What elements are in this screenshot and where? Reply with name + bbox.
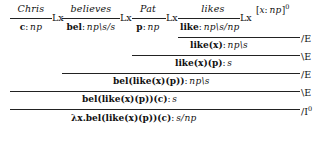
type-assignment-pat: p: np [136,23,159,32]
rule-line-lex-likes [178,18,240,19]
term-step-1: like(x) [190,40,223,50]
rule-label-step-5: /I0 [301,106,312,117]
rule-line-step-2 [132,55,300,56]
type-likes: np\s/np [204,22,240,32]
rule-label-step-4: \E [301,88,311,98]
rule-label-lex-likes: Lx [240,13,252,23]
hypothesis-discharge-label: 0 [285,3,289,11]
colon-pat: : [143,22,146,32]
rule-letter-step-4: E [304,87,311,98]
conclusion-step-2: like(x)(p): s [175,59,232,68]
lexical-word-believes: believes [71,4,112,14]
rule-letter-step-3: E [304,69,311,80]
type-step-1: np\s [228,40,248,50]
rule-line-step-3 [62,73,300,74]
rule-label-step-1: /E [301,34,311,44]
type-assignment-believes: bel: np\s/s [67,23,116,32]
proof-tree: Chris believes Pat likes [x: np]0 Lx Lx … [0,0,318,152]
rule-label-lex-believes: Lx [120,13,132,23]
rule-letter-step-1: E [304,33,311,44]
type-pat: np [147,22,159,32]
type-step-3: np\s [189,76,209,86]
term-step-3: bel(like(x)(p)) [113,76,184,86]
term-step-2: like(x)(p) [175,58,223,68]
lexical-word-chris: Chris [18,4,45,14]
lexical-word-likes: likes [201,4,224,14]
hypothesis-type: np [269,5,281,15]
rule-line-lex-chris [10,18,52,19]
lexical-word-pat: Pat [140,4,156,14]
rule-line-lex-believes [62,18,120,19]
colon-step-4: : [167,94,170,104]
colon-step-2: : [223,58,226,68]
term-likes: like [180,22,199,32]
term-believes: bel [67,22,82,32]
rule-label-step-3: /E [301,70,311,80]
conclusion-step-5: λx.bel(like(x)(p))(c): s/np [71,114,197,123]
hypothesis-colon: : [265,5,268,15]
type-step-5: s/np [176,113,196,123]
rule-line-step-1 [178,37,300,38]
type-step-2: s [227,58,232,68]
type-assignment-likes: like: np\s/np [180,23,240,32]
rule-line-step-4 [10,91,300,92]
rule-superscript-step-5: 0 [308,105,312,113]
rule-letter-step-2: E [304,51,311,62]
rule-label-step-2: \E [301,52,311,62]
conclusion-step-1: like(x): np\s [190,41,248,50]
type-assignment-chris: c: np [20,23,43,32]
conclusion-step-3: bel(like(x)(p)): np\s [113,77,210,86]
rule-line-step-5 [10,109,300,110]
type-chris: np [30,22,42,32]
rule-label-lex-pat: Lx [166,13,178,23]
term-step-5: λx.bel(like(x)(p))(c) [71,113,171,123]
conclusion-step-4: bel(like(x)(p))(c): s [82,95,177,104]
discharged-hypothesis: [x: np]0 [256,4,289,15]
colon-believes: : [82,22,85,32]
rule-line-lex-pat [132,18,166,19]
type-step-4: s [172,94,177,104]
colon-step-1: : [223,40,226,50]
type-believes: np\s/s [87,22,116,32]
colon-step-3: : [184,76,187,86]
colon-step-5: : [171,113,174,123]
colon-likes: : [199,22,202,32]
colon-chris: : [25,22,28,32]
term-step-4: bel(like(x)(p))(c) [82,94,167,104]
